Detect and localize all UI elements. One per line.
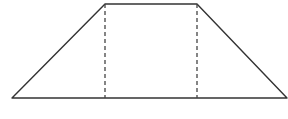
trapezoid-outline <box>12 4 287 98</box>
trapezoid-diagram <box>0 0 288 119</box>
